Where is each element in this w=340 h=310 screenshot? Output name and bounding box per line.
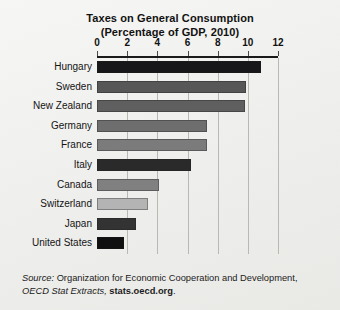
x-tick-mark xyxy=(157,51,158,56)
bar xyxy=(97,198,148,210)
category-label: Sweden xyxy=(0,79,92,94)
chart-title-block: Taxes on General Consumption (Percentage… xyxy=(0,11,340,39)
x-tick-label: 12 xyxy=(263,37,293,48)
bar xyxy=(97,100,245,112)
plot-area: 024681012 HungarySwedenNew ZealandGerman… xyxy=(97,56,278,254)
category-label: Hungary xyxy=(0,59,92,74)
bar-row: Canada xyxy=(97,176,278,196)
category-label: United States xyxy=(0,235,92,250)
bar xyxy=(97,120,207,132)
x-tick-mark xyxy=(218,51,219,56)
x-tick-mark xyxy=(97,51,98,56)
bar-row: France xyxy=(97,136,278,156)
x-tick-label: 6 xyxy=(173,37,203,48)
category-label: New Zealand xyxy=(0,98,92,113)
x-tick-label: 4 xyxy=(142,37,172,48)
category-label: Switzerland xyxy=(0,196,92,211)
source-url: stats.oecd.org xyxy=(109,286,173,296)
page-title: Taxes on General Consumption xyxy=(0,11,340,25)
source-prefix: Source: xyxy=(22,273,54,283)
bar xyxy=(97,179,159,191)
category-label: Germany xyxy=(0,118,92,133)
category-label: Italy xyxy=(0,157,92,172)
source-organization: Organization for Economic Cooperation an… xyxy=(57,273,298,283)
category-label: Japan xyxy=(0,216,92,231)
bar xyxy=(97,139,207,151)
x-tick-label: 10 xyxy=(233,37,263,48)
x-tick-label: 8 xyxy=(203,37,233,48)
bar-row: Italy xyxy=(97,156,278,176)
bar-row: Switzerland xyxy=(97,195,278,215)
bar xyxy=(97,218,136,230)
x-tick-label: 2 xyxy=(112,37,142,48)
bar-row: Japan xyxy=(97,215,278,235)
bar-row: Sweden xyxy=(97,78,278,98)
gridline xyxy=(278,58,279,254)
bar-row: Germany xyxy=(97,117,278,137)
bar-row: New Zealand xyxy=(97,97,278,117)
bar-row: United States xyxy=(97,234,278,254)
bar xyxy=(97,159,191,171)
source-period: . xyxy=(173,286,176,296)
x-tick-mark xyxy=(278,51,279,56)
x-tick-mark xyxy=(248,51,249,56)
x-tick-mark xyxy=(188,51,189,56)
x-tick-mark xyxy=(127,51,128,56)
category-label: Canada xyxy=(0,177,92,192)
bar xyxy=(97,81,246,93)
bar xyxy=(97,61,261,73)
bar-row: Hungary xyxy=(97,58,278,78)
source-publication: OECD Stat Extracts, xyxy=(22,286,107,296)
category-label: France xyxy=(0,137,92,152)
chart-figure: Taxes on General Consumption (Percentage… xyxy=(0,0,340,310)
bar-series: HungarySwedenNew ZealandGermanyFranceIta… xyxy=(97,58,278,254)
bar xyxy=(97,237,124,249)
x-tick-label: 0 xyxy=(82,37,112,48)
source-note: Source: Organization for Economic Cooper… xyxy=(22,272,322,297)
